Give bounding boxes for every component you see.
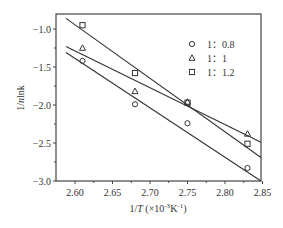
y-tick-label: −3.0: [33, 176, 51, 187]
legend-square-icon: [189, 69, 194, 74]
y-tick-label: −1.0: [33, 24, 51, 35]
y-tick-label: −2.0: [33, 100, 51, 111]
x-tick-label: 2.70: [141, 187, 159, 198]
fit-line-triangle: [66, 46, 261, 142]
legend-label: 1：0.8: [207, 39, 235, 50]
square-marker: [132, 70, 137, 75]
y-axis-label: 1/nlnk: [15, 85, 26, 111]
x-axis-label: 1/T (×10-3K-1): [129, 202, 186, 215]
y-tick-label: −2.5: [33, 138, 51, 149]
legend-label: 1：1.2: [207, 67, 235, 78]
legend-triangle-icon: [189, 55, 195, 61]
x-tick-label: 2.85: [254, 187, 272, 198]
legend: 1：0.81：11：1.2: [189, 39, 235, 78]
circle-marker: [185, 121, 190, 126]
square-marker: [245, 141, 250, 146]
legend-label: 1：1: [207, 53, 227, 64]
triangle-marker: [132, 88, 138, 94]
y-tick-label: −1.5: [33, 62, 51, 73]
circle-marker: [245, 165, 250, 170]
y-tick-labels: −1.0−1.5−2.0−2.5−3.0: [33, 24, 51, 187]
triangle-marker: [80, 45, 86, 51]
x-tick-label: 2.60: [66, 187, 84, 198]
square-marker: [80, 23, 85, 28]
x-tick-label: 2.65: [104, 187, 122, 198]
x-tick-labels: 2.602.652.702.752.802.85: [66, 187, 271, 198]
chart: −1.0−1.5−2.0−2.5−3.0 2.602.652.702.752.8…: [0, 0, 283, 228]
circle-marker: [132, 102, 137, 107]
circle-marker: [80, 58, 85, 63]
legend-circle-icon: [189, 41, 194, 46]
x-tick-label: 2.75: [179, 187, 197, 198]
x-tick-label: 2.80: [216, 187, 234, 198]
